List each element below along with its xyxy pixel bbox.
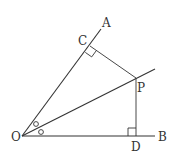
segment-CP <box>90 46 136 78</box>
geometry-diagram: A C P O D B <box>0 0 178 159</box>
equal-angle-mark-POB <box>39 130 44 135</box>
right-angle-mark-C <box>85 51 96 57</box>
label-C: C <box>78 34 87 48</box>
label-O: O <box>11 130 21 144</box>
angle-bisector-OP <box>22 69 155 136</box>
label-A: A <box>101 16 111 30</box>
label-B: B <box>158 130 167 144</box>
label-D: D <box>131 140 141 154</box>
right-angle-mark-D <box>128 128 136 136</box>
label-P: P <box>137 81 145 95</box>
ray-OA <box>22 29 101 136</box>
equal-angle-mark-AOP <box>34 122 39 127</box>
